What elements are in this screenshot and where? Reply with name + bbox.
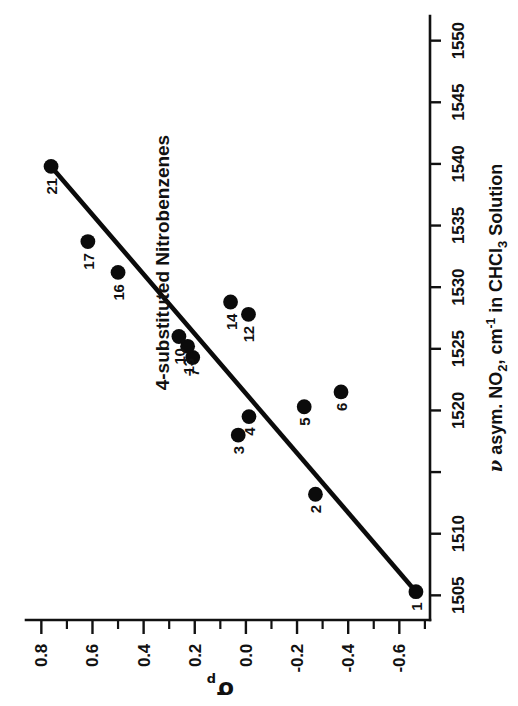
chart-title: 4-substituted Nitrobenzenes bbox=[152, 135, 173, 390]
y-tick-label: 0.4 bbox=[135, 643, 154, 667]
x-tick-label: 1520 bbox=[449, 392, 468, 429]
x-tick-label: 1540 bbox=[449, 145, 468, 182]
x-tick-label: 1525 bbox=[449, 330, 468, 367]
y-axis-title: σp bbox=[207, 673, 234, 703]
y-tick-label: -0.4 bbox=[339, 643, 358, 672]
data-point bbox=[297, 399, 312, 414]
data-point bbox=[308, 487, 323, 502]
data-point bbox=[242, 409, 257, 424]
data-point-label: 21 bbox=[43, 178, 60, 194]
x-axis-title: ν asym. NO2, cm-1 in CHCl3 Solution bbox=[484, 164, 510, 473]
x-tick-label: 1505 bbox=[449, 577, 468, 614]
y-tick-label: 0.0 bbox=[237, 644, 256, 667]
y-axis-ticks: -0.6-0.4-0.20.00.20.40.60.8 bbox=[32, 620, 425, 673]
data-point-label: 10 bbox=[171, 348, 188, 364]
regression-line bbox=[51, 166, 416, 591]
y-tick-label: 0.6 bbox=[83, 644, 102, 667]
data-point bbox=[409, 584, 424, 599]
data-point-label: 2 bbox=[307, 505, 324, 513]
data-point bbox=[111, 265, 126, 280]
data-point-label: 4 bbox=[241, 427, 258, 436]
scatter-chart: 150515101520152515301535154015451550-0.6… bbox=[0, 0, 518, 706]
data-point-label: 12 bbox=[240, 326, 257, 342]
data-point-label: 6 bbox=[333, 403, 350, 411]
data-point bbox=[241, 307, 256, 322]
chart-plot-area: 150515101520152515301535154015451550-0.6… bbox=[0, 0, 518, 706]
x-tick-label: 1530 bbox=[449, 269, 468, 306]
data-point bbox=[334, 385, 349, 400]
data-point bbox=[172, 329, 187, 344]
x-tick-label: 1550 bbox=[449, 22, 468, 59]
x-tick-label: 1510 bbox=[449, 515, 468, 552]
data-point bbox=[80, 234, 95, 249]
data-point-label: 16 bbox=[110, 284, 127, 300]
data-point-label: 5 bbox=[296, 418, 313, 426]
y-tick-label: -0.6 bbox=[390, 644, 409, 673]
x-tick-label: 1545 bbox=[449, 84, 468, 121]
rotated-plot-wrapper: 150515101520152515301535154015451550-0.6… bbox=[0, 0, 518, 706]
x-axis-ticks: 150515101520152515301535154015451550 bbox=[430, 22, 468, 614]
data-point bbox=[44, 159, 59, 174]
y-tick-label: -0.2 bbox=[288, 644, 307, 673]
data-point-label: 17 bbox=[80, 254, 97, 270]
data-point-label: 14 bbox=[223, 313, 240, 330]
figure-root: 150515101520152515301535154015451550-0.6… bbox=[0, 0, 518, 706]
x-tick-label: 1535 bbox=[449, 207, 468, 244]
y-tick-label: 0.8 bbox=[32, 644, 51, 667]
data-point-label: 3 bbox=[230, 446, 247, 454]
data-point-label: 1 bbox=[408, 603, 425, 611]
y-tick-label: 0.2 bbox=[186, 644, 205, 667]
data-point bbox=[223, 295, 238, 310]
